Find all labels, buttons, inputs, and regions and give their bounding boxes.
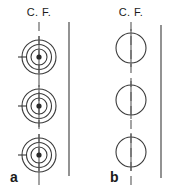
concentric-ring-assembly [18, 85, 56, 127]
core-marker [36, 103, 41, 108]
centerline-label-a: C. F. [27, 6, 52, 18]
concentric-ring-assembly [18, 36, 56, 78]
core-marker [36, 152, 41, 157]
single-circle [116, 81, 146, 119]
figure-diagram: C. F.aC. F.b [0, 0, 171, 193]
single-circle [116, 29, 146, 67]
centerline-label-b: C. F. [119, 6, 144, 18]
panel-label-b: b [110, 169, 119, 185]
panel-a: C. F.a [10, 6, 69, 190]
panel-b: C. F.b [110, 6, 161, 190]
core-marker [36, 54, 41, 59]
panel-label-a: a [10, 169, 18, 185]
figure-container: C. F.aC. F.b [0, 0, 171, 193]
single-circle [116, 133, 146, 171]
concentric-ring-assembly [18, 134, 56, 176]
